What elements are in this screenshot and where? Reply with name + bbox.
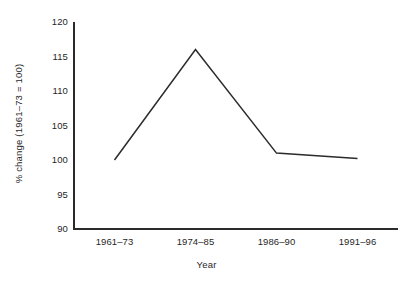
x-axis-title: Year: [0, 259, 413, 270]
x-axis-tick-label: 1986–90: [258, 236, 296, 247]
series-line-primary: [115, 50, 358, 160]
x-axis-tick-label: 1991–96: [339, 236, 377, 247]
x-axis-tick-label: 1974–85: [177, 236, 215, 247]
line-chart: % change (1961–73 = 100) 909510010511011…: [0, 0, 413, 284]
x-axis-tick-label: 1961–73: [96, 236, 134, 247]
